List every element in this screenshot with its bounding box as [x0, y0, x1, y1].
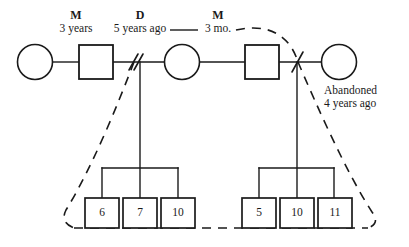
person-circle-p5[interactable] — [322, 45, 357, 80]
genogram-canvas: M 3 years D 5 years ago M 3 mo. Abandone… — [0, 0, 409, 247]
child-age-c5: 10 — [280, 207, 314, 219]
person-square-p4[interactable] — [245, 45, 279, 79]
union-1-detail: 3 years — [46, 22, 106, 34]
child-age-c3: 10 — [161, 207, 195, 219]
union-1-end-code: D — [108, 9, 172, 22]
person-circle-p3[interactable] — [165, 45, 200, 80]
union-2-code: M — [193, 9, 243, 22]
child-age-c4: 5 — [242, 207, 276, 219]
person-circle-p1[interactable] — [18, 45, 53, 80]
union-1-code: M — [46, 9, 106, 22]
descent-lines — [140, 62, 297, 198]
person-square-p2[interactable] — [79, 45, 113, 79]
union-1-end-detail: 5 years ago — [108, 22, 172, 34]
abandonment-note-line2: 4 years ago — [324, 97, 376, 109]
child-age-c2: 7 — [123, 207, 157, 219]
child-age-c6: 11 — [318, 207, 352, 219]
abandonment-note-line1: Abandoned — [324, 84, 377, 96]
union-2-detail: 3 mo. — [193, 22, 243, 34]
child-age-c1: 6 — [85, 207, 119, 219]
